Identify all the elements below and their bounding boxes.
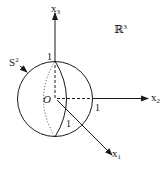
sphere-label-pointer <box>20 66 27 72</box>
x1-unit-label: 1 <box>66 118 71 129</box>
unit-sphere-diagram: x3 x2 x1 ℝ3 S2 O 1 1 1 <box>0 0 166 172</box>
x3-axis-label: x3 <box>51 2 61 16</box>
sphere-label: S2 <box>9 56 19 68</box>
x2-unit-label: 1 <box>95 102 100 113</box>
space-label: ℝ3 <box>114 23 127 35</box>
origin-label: O <box>43 93 51 105</box>
x1-axis-label: x1 <box>112 147 122 161</box>
x3-unit-label: 1 <box>47 51 52 62</box>
x2-axis-label: x2 <box>151 91 161 105</box>
